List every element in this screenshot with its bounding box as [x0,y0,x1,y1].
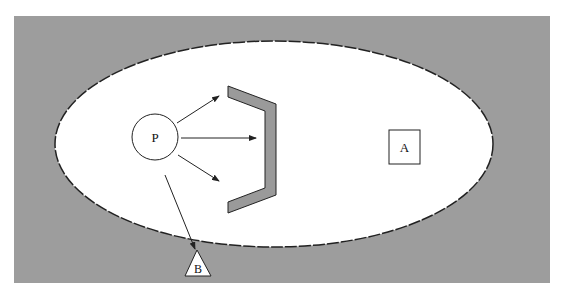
node-a-label: A [400,140,410,155]
node-b-label: B [194,262,202,276]
node-p: P [132,114,178,160]
node-p-label: P [151,130,158,145]
diagram-svg: P A B [0,0,565,298]
node-a: A [389,130,420,164]
diagram-canvas: P A B [0,0,565,298]
